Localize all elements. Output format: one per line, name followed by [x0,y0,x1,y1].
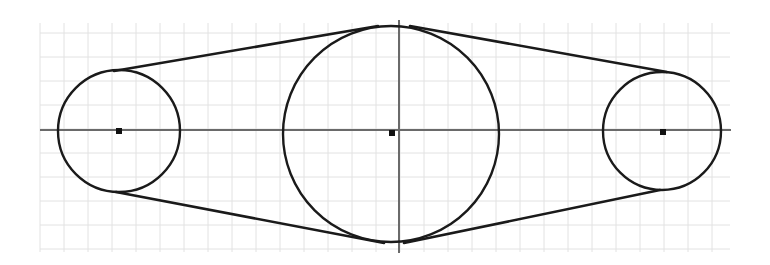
belt-bottom-right [404,190,660,243]
center-center-mark [389,130,395,136]
left-center-mark [116,128,122,134]
axes [40,20,731,253]
grid [40,23,730,252]
right-center-mark [660,129,666,135]
belt-pulley-diagram [0,0,770,265]
belt-bottom-left [116,192,384,243]
